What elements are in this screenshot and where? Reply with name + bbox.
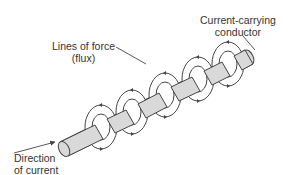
conductor-rod-front [56, 50, 253, 158]
conductor-label: Current-carrying conductor [200, 14, 276, 38]
conductor-leader-line [243, 36, 255, 50]
direction-label: Direction of current [14, 152, 58, 175]
flux-label: Lines of force (flux) [52, 40, 115, 64]
flux-leader-line [116, 47, 146, 64]
